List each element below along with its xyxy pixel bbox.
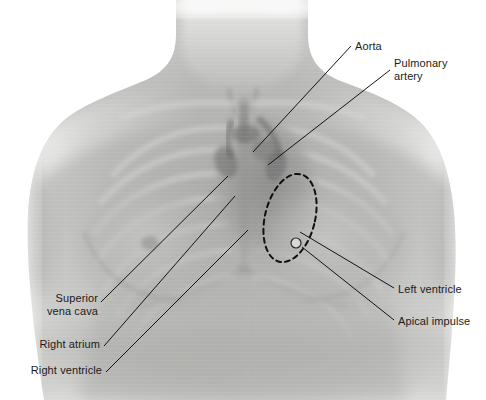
label-superior-vena-cava-line2: vena cava <box>47 305 98 318</box>
label-right-atrium: Right atrium <box>40 338 101 351</box>
label-left-ventricle: Left ventricle <box>398 283 462 296</box>
label-superior-vena-cava-line1: Superior <box>47 292 98 305</box>
label-apical-impulse: Apical impulse <box>398 315 470 328</box>
label-pulmonary-artery-line2: artery <box>394 70 447 83</box>
label-right-ventricle: Right ventricle <box>31 364 102 377</box>
label-superior-vena-cava: Superior vena cava <box>47 292 98 317</box>
label-pulmonary-artery: Pulmonary artery <box>394 57 447 82</box>
label-pulmonary-artery-line1: Pulmonary <box>394 57 447 70</box>
anatomy-figure: Aorta Pulmonary artery Left ventricle Ap… <box>0 0 486 400</box>
label-aorta: Aorta <box>355 40 382 53</box>
